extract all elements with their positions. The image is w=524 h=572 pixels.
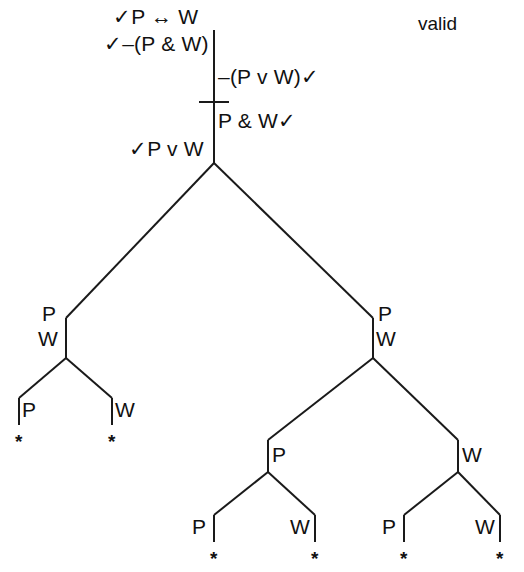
- left-node-atom-upper: P: [42, 303, 56, 324]
- leaf-1-atom: P: [22, 399, 36, 420]
- right-split-left: [268, 358, 373, 440]
- leaf-2-atom: W: [115, 399, 135, 420]
- right-mid-left-atom: P: [272, 444, 286, 465]
- right-mid-left-split-left: [214, 472, 268, 515]
- premise-1: ✓P ↔ W: [113, 6, 198, 27]
- derived-conjunction: P & W✓: [218, 110, 296, 131]
- main-branch-right: [214, 163, 373, 318]
- right-mid-right-split-left: [404, 472, 458, 515]
- right-node-atom-lower: W: [376, 328, 396, 349]
- leaf-3-closure-star: *: [210, 549, 217, 568]
- right-node-atom-upper: P: [378, 303, 392, 324]
- main-branch-left: [66, 163, 214, 318]
- right-split-right: [373, 358, 458, 440]
- left-split-right: [66, 358, 112, 398]
- right-mid-left-split-right: [268, 472, 315, 515]
- left-node-atom-lower: W: [38, 328, 58, 349]
- negated-conclusion: –(P v W)✓: [218, 66, 319, 87]
- leaf-5-atom: P: [382, 516, 396, 537]
- leaf-1-closure-star: *: [15, 432, 22, 451]
- left-split-left: [19, 358, 66, 398]
- premise-2: ✓–(P & W): [104, 33, 209, 54]
- right-mid-right-split-right: [458, 472, 500, 515]
- leaf-4-closure-star: *: [311, 549, 318, 568]
- leaf-2-closure-star: *: [108, 432, 115, 451]
- truth-tree-figure: ✓P ↔ W ✓–(P & W) –(P v W)✓ P & W✓ ✓P v W…: [0, 0, 524, 572]
- leaf-6-closure-star: *: [496, 549, 503, 568]
- leaf-4-atom: W: [290, 516, 310, 537]
- verdict-label: valid: [418, 14, 457, 33]
- leaf-5-closure-star: *: [400, 549, 407, 568]
- leaf-3-atom: P: [192, 516, 206, 537]
- derived-disjunction: ✓P v W: [129, 138, 204, 159]
- right-mid-right-atom: W: [462, 444, 482, 465]
- leaf-6-atom: W: [475, 516, 495, 537]
